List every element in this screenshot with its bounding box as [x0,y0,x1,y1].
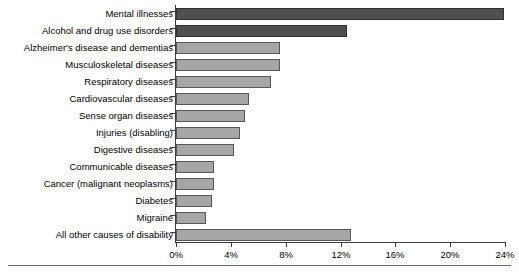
category-label: Diabetes [0,195,173,206]
category-label: Musculoskeletal diseases [0,59,173,70]
chart-row: Cardiovascular diseases [0,90,519,107]
category-label: Mental illnesses [0,8,173,19]
category-label: Respiratory diseases [0,76,173,87]
bar [176,144,234,156]
bar [176,195,212,207]
bar [176,212,206,224]
bar [176,161,214,173]
category-label: Communicable diseases [0,161,173,172]
bar [176,93,249,105]
bar [176,127,240,139]
y-axis-tick [170,215,175,216]
x-axis-tick-label: 16% [385,249,404,260]
chart-row: All other causes of disability [0,226,519,243]
plot-area: Mental illnessesAlcohol and drug use dis… [0,0,519,246]
x-axis-tick-label: 20% [440,249,459,260]
chart-row: Musculoskeletal diseases [0,56,519,73]
chart-row: Alcohol and drug use disorders [0,22,519,39]
y-axis-line [175,5,176,243]
category-label: Alcohol and drug use disorders [0,25,173,36]
y-axis-tick [170,164,175,165]
bottom-rule [8,265,511,266]
x-axis-tick [231,243,232,247]
x-axis-tick-label: 24% [495,249,514,260]
bar [176,76,271,88]
bar [176,8,504,20]
chart-row: Mental illnesses [0,5,519,22]
bar [176,229,351,241]
disability-causes-bar-chart: Mental illnessesAlcohol and drug use dis… [0,0,519,273]
bar [176,25,347,37]
y-axis-tick [170,130,175,131]
y-axis-tick [170,28,175,29]
chart-row: Sense organ diseases [0,107,519,124]
bar [176,178,214,190]
bar [176,42,280,54]
y-axis-tick [170,79,175,80]
x-axis-tick-label: 4% [224,249,238,260]
chart-row: Cancer (malignant neoplasms) [0,175,519,192]
x-axis-tick [286,243,287,247]
chart-row: Alzheimer's disease and dementias [0,39,519,56]
category-label: Cardiovascular diseases [0,93,173,104]
y-axis-tick [170,45,175,46]
y-axis-tick [170,11,175,12]
x-axis-tick [395,243,396,247]
x-axis-tick-label: 0% [169,249,183,260]
bar [176,110,245,122]
chart-row: Respiratory diseases [0,73,519,90]
y-axis-tick [170,232,175,233]
x-axis-tick-label: 8% [279,249,293,260]
y-axis-tick [170,113,175,114]
category-label: Digestive diseases [0,144,173,155]
chart-row: Migraine [0,209,519,226]
chart-row: Diabetes [0,192,519,209]
bar [176,59,280,71]
x-axis-tick [505,243,506,247]
category-label: Injuries (disabling) [0,127,173,138]
x-axis-tick-label: 12% [331,249,350,260]
y-axis-tick [170,198,175,199]
category-label: Migraine [0,212,173,223]
y-axis-tick [170,62,175,63]
category-label: Sense organ diseases [0,110,173,121]
x-axis-tick [450,243,451,247]
category-label: Alzheimer's disease and dementias [0,42,173,53]
y-axis-tick [170,147,175,148]
chart-row: Digestive diseases [0,141,519,158]
chart-row: Communicable diseases [0,158,519,175]
y-axis-tick [170,181,175,182]
x-axis-tick [176,243,177,247]
category-label: All other causes of disability [0,229,173,240]
category-label: Cancer (malignant neoplasms) [0,178,173,189]
x-axis-tick [341,243,342,247]
y-axis-tick [170,96,175,97]
chart-row: Injuries (disabling) [0,124,519,141]
